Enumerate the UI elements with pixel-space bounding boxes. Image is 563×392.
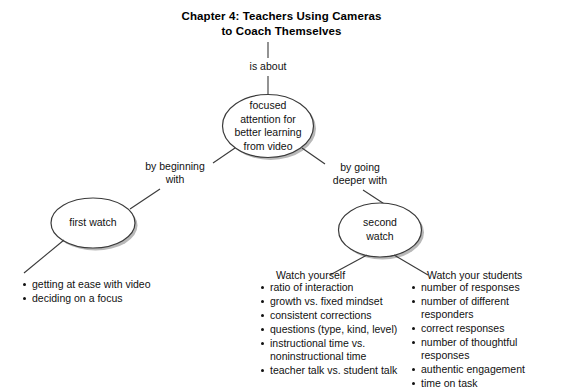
list-item: number of different responders (421, 295, 563, 321)
edge-label-is-about-text: is about (250, 60, 287, 72)
page-title-line-2: to Coach Themselves (0, 24, 563, 39)
list-item: ratio of interaction (270, 281, 397, 294)
list-item: questions (type, kind, level) (270, 323, 397, 336)
edge-label-by-going-deeper-line-2: deeper with (333, 174, 387, 186)
edge-label-by-beginning-with: by beginning with (133, 160, 217, 186)
page-title: Chapter 4: Teachers Using Cameras to Coa… (0, 9, 563, 39)
list-item: correct responses (421, 322, 563, 335)
concept-map-page: .ln { stroke: #3a3a3a; stroke-width: 1.1… (0, 0, 563, 392)
page-title-line-1: Chapter 4: Teachers Using Cameras (0, 9, 563, 24)
watch-yourself-heading-text: Watch yourself (276, 269, 345, 281)
second-watch-line-2: watch (366, 230, 393, 242)
watch-your-students-heading-text: Watch your students (427, 269, 522, 281)
first-watch-line-1: first watch (69, 216, 116, 228)
list-item: number of responses (421, 281, 563, 294)
list-item: growth vs. fixed mindset (270, 295, 397, 308)
connector-secondwatch-to-students (394, 255, 428, 275)
list-item: deciding on a focus (32, 292, 151, 305)
list-item: consistent corrections (270, 309, 397, 322)
second-watch-line-1: second (363, 216, 397, 228)
watch-your-students-bullet-list: number of responsesnumber of different r… (409, 281, 563, 392)
center-node-line-4: from video (243, 140, 292, 152)
edge-label-by-going-deeper-with: by going deeper with (318, 161, 402, 187)
edge-label-by-going-deeper-line-1: by going (340, 161, 380, 173)
list-item: time on task (421, 377, 563, 390)
list-item: getting at ease with video (32, 278, 151, 291)
list-item: authentic engagement (421, 363, 563, 376)
edge-label-by-beginning-with-line-1: by beginning (145, 160, 205, 172)
connector-firstwatch-to-list (24, 240, 64, 273)
first-watch-bullet-list: getting at ease with videodeciding on a … (20, 278, 151, 306)
watch-yourself-bullet-list: ratio of interactiongrowth vs. fixed min… (258, 281, 397, 378)
edge-label-is-about: is about (228, 60, 308, 73)
center-node-label: focused attention for better learning fr… (213, 99, 323, 153)
edge-label-by-beginning-with-line-2: with (166, 173, 185, 185)
first-watch-node-label: first watch (48, 216, 138, 230)
connector-beginning-to-firstwatch (130, 189, 160, 209)
list-item: instructional time vs. noninstructional … (270, 337, 397, 363)
center-node-line-3: better learning (234, 126, 301, 138)
list-item: teacher talk vs. student talk (270, 364, 397, 377)
center-node-line-1: focused (250, 99, 287, 111)
second-watch-node-label: second watch (335, 216, 425, 243)
center-node-line-2: attention for (240, 113, 295, 125)
list-item: number of thoughtful responses (421, 336, 563, 362)
